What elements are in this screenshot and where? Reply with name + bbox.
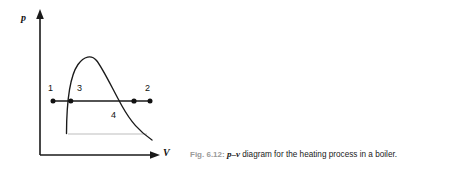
state-point-4	[131, 98, 136, 103]
figure-container: p V 1 3 2 4 Fig. 6.12: p–v diagram for t…	[0, 0, 453, 171]
state-point-3	[68, 99, 73, 104]
state-label-3: 3	[77, 84, 82, 93]
pv-diagram-canvas	[0, 0, 200, 171]
y-axis-label: p	[21, 13, 26, 23]
state-label-4: 4	[111, 111, 116, 120]
caption-italic-term: p–v	[227, 149, 240, 159]
caption-figure-number: Fig. 6.12:	[190, 150, 225, 159]
x-axis	[40, 151, 160, 159]
x-axis-label: V	[163, 148, 170, 158]
state-point-2	[148, 99, 153, 104]
y-axis	[36, 9, 44, 155]
saturation-dome-curve	[67, 57, 153, 140]
caption-text: diagram for the heating process in a boi…	[240, 150, 397, 159]
state-label-1: 1	[48, 84, 53, 93]
figure-caption: Fig. 6.12: p–v diagram for the heating p…	[190, 148, 397, 161]
state-label-2: 2	[145, 84, 150, 93]
state-point-1	[51, 99, 56, 104]
